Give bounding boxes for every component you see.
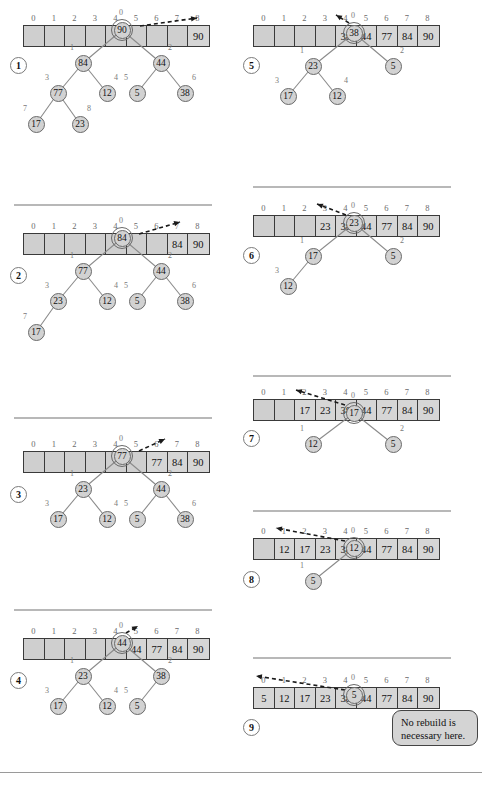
tree-edges [241, 662, 482, 786]
tree-node: 17 [28, 324, 45, 341]
tree-node-index-label: 2 [400, 46, 404, 55]
tree-node-index-label: 0 [351, 673, 355, 682]
tree-node-index-label: 7 [23, 312, 27, 321]
tree-node: 84 [75, 55, 92, 72]
tree-node: 23 [75, 481, 92, 498]
tree-node: 38 [177, 85, 194, 102]
step-panel-4: 012345678 44778490 4 44023138217312455 [0, 610, 241, 772]
tree-node: 12 [329, 88, 346, 105]
tree-node-index-label: 6 [192, 73, 196, 82]
tree-node-index-label: 6 [192, 499, 196, 508]
tree-node: 12 [99, 511, 116, 528]
tree-node-index-label: 4 [114, 499, 118, 508]
tree-node-index-label: 3 [275, 266, 279, 275]
step-panel-3: 012345678 778490 3 77023144217312455386 [0, 418, 241, 610]
tree-node: 12 [280, 278, 297, 295]
tree-node: 5 [129, 85, 146, 102]
tree-node: 17 [280, 88, 297, 105]
tree-node: 17 [50, 698, 67, 715]
tree-node-index-label: 4 [114, 73, 118, 82]
step-panel-6: 012345678 233844778490 6 23017152123 [241, 190, 482, 380]
tree-node: 5 [129, 698, 146, 715]
tree-node: 5 [129, 293, 146, 310]
tree-node-index-label: 4 [344, 76, 348, 85]
tree-node-index-label: 8 [87, 104, 91, 113]
step-panel-2: 012345678 8490 2 84077144223312455386177 [0, 205, 241, 417]
arrow-head [256, 674, 262, 679]
tree-node-index-label: 5 [124, 281, 128, 290]
tree-node-index-label: 2 [168, 656, 172, 665]
step-panel-5: 012345678 3844778490 5 38023152173124 [241, 0, 482, 190]
step-panel-1: 012345678 90 1 9008414427731245538617723… [0, 0, 241, 205]
arrow-head [317, 204, 323, 209]
tree-node: 5 [385, 58, 402, 75]
tree-node: 77 [75, 263, 92, 280]
tree-node: 44 [153, 481, 170, 498]
tree-node-index-label: 0 [119, 621, 123, 630]
tree-node: 38 [177, 511, 194, 528]
arrow-head [276, 526, 282, 531]
tree-node-index-label: 0 [119, 434, 123, 443]
tree-node: 44 [153, 55, 170, 72]
tree-node: 5 [129, 511, 146, 528]
step-panel-9: 012345678 51217233844778490 9 50 No rebu… [241, 662, 482, 772]
tree-node-index-label: 1 [70, 656, 74, 665]
tree-node: 44 [114, 635, 131, 652]
tree-node: 17 [305, 248, 322, 265]
tree-node-index-label: 0 [351, 391, 355, 400]
tree-node: 23 [75, 668, 92, 685]
tree-node: 17 [346, 405, 363, 422]
tree-node-index-label: 0 [351, 11, 355, 20]
tree-node-index-label: 0 [351, 201, 355, 210]
tree-node-index-label: 4 [114, 686, 118, 695]
tree-node-index-label: 3 [45, 73, 49, 82]
tree-node-index-label: 6 [192, 281, 196, 290]
tree-node: 38 [153, 668, 170, 685]
tree-node-index-label: 0 [119, 216, 123, 225]
tree-node: 5 [385, 248, 402, 265]
tree-node: 5 [346, 687, 363, 704]
tree-node-index-label: 5 [124, 686, 128, 695]
arrow-head [174, 221, 180, 226]
tree-node: 23 [50, 293, 67, 310]
tree-node: 77 [50, 85, 67, 102]
tree-node: 5 [305, 573, 322, 590]
tree-node-index-label: 1 [70, 43, 74, 52]
tree-node: 17 [28, 116, 45, 133]
figure-canvas: 012345678 90 1 9008414427731245538617723… [0, 0, 482, 786]
arrow-head [296, 389, 302, 394]
tree-node-index-label: 2 [400, 424, 404, 433]
tree-node: 12 [305, 436, 322, 453]
tree-node-index-label: 4 [114, 281, 118, 290]
tree-node-index-label: 2 [168, 251, 172, 260]
tree-node: 12 [346, 540, 363, 557]
tree-node-index-label: 2 [400, 236, 404, 245]
tree-node: 38 [346, 25, 363, 42]
tree-node-index-label: 0 [119, 8, 123, 17]
tree-node: 23 [346, 215, 363, 232]
tree-node: 5 [385, 436, 402, 453]
tree-node-index-label: 3 [45, 686, 49, 695]
tree-node-index-label: 2 [168, 469, 172, 478]
tree-node-index-label: 2 [168, 43, 172, 52]
tree-node-index-label: 1 [300, 561, 304, 570]
tree-node-index-label: 1 [300, 236, 304, 245]
tree-node: 44 [153, 263, 170, 280]
tree-node-index-label: 5 [124, 73, 128, 82]
tree-node: 84 [114, 230, 131, 247]
tree-node-index-label: 0 [351, 526, 355, 535]
tree-node-index-label: 1 [300, 424, 304, 433]
tree-node-index-label: 5 [124, 499, 128, 508]
tree-node: 90 [114, 22, 131, 39]
tree-node: 17 [50, 511, 67, 528]
tree-node: 38 [177, 293, 194, 310]
step-panel-7: 012345678 17233844778490 7 17012152 [241, 378, 482, 523]
tree-node-index-label: 7 [23, 104, 27, 113]
tree-node: 12 [99, 698, 116, 715]
tree-node-index-label: 3 [275, 76, 279, 85]
tree-node: 77 [114, 448, 131, 465]
tree-node-index-label: 1 [70, 251, 74, 260]
tree-node-index-label: 1 [300, 46, 304, 55]
tree-node-index-label: 3 [45, 499, 49, 508]
tree-node: 12 [99, 293, 116, 310]
